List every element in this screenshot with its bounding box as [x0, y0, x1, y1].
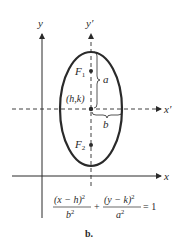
ellipse-equation: (x − h)2 b2 + (y − k)2 a2 = 1 [53, 193, 156, 220]
x-prime-axis-label: x′ [163, 103, 172, 115]
center-label: (h,k) [66, 93, 85, 105]
eq-term2-numerator: (y − k)2 [104, 193, 135, 206]
figure-caption: b. [85, 228, 94, 239]
y-axis-label: y [37, 17, 43, 29]
focus-f2-label: F2 [74, 138, 86, 152]
semi-major-label: a [103, 73, 109, 85]
eq-term1-denominator: b2 [66, 208, 74, 220]
semi-minor-label: b [103, 118, 109, 130]
focus-f2-point [89, 143, 93, 147]
diagram-canvas: y x y′ x′ F1 F2 (h,k) a b [0, 0, 179, 241]
eq-term1-numerator: (x − h)2 [54, 193, 85, 206]
center-point [89, 107, 93, 111]
eq-equals-one: = 1 [143, 201, 156, 212]
y-prime-axis-label: y′ [85, 17, 94, 29]
focus-f1-label: F1 [74, 65, 86, 79]
eq-term2-denominator: a2 [116, 208, 124, 220]
eq-plus: + [94, 201, 100, 212]
focus-f1-point [89, 69, 93, 73]
x-axis-label: x [163, 170, 169, 182]
ellipse-diagram: y x y′ x′ F1 F2 (h,k) a b [0, 0, 179, 241]
semi-major-brace [94, 52, 100, 108]
